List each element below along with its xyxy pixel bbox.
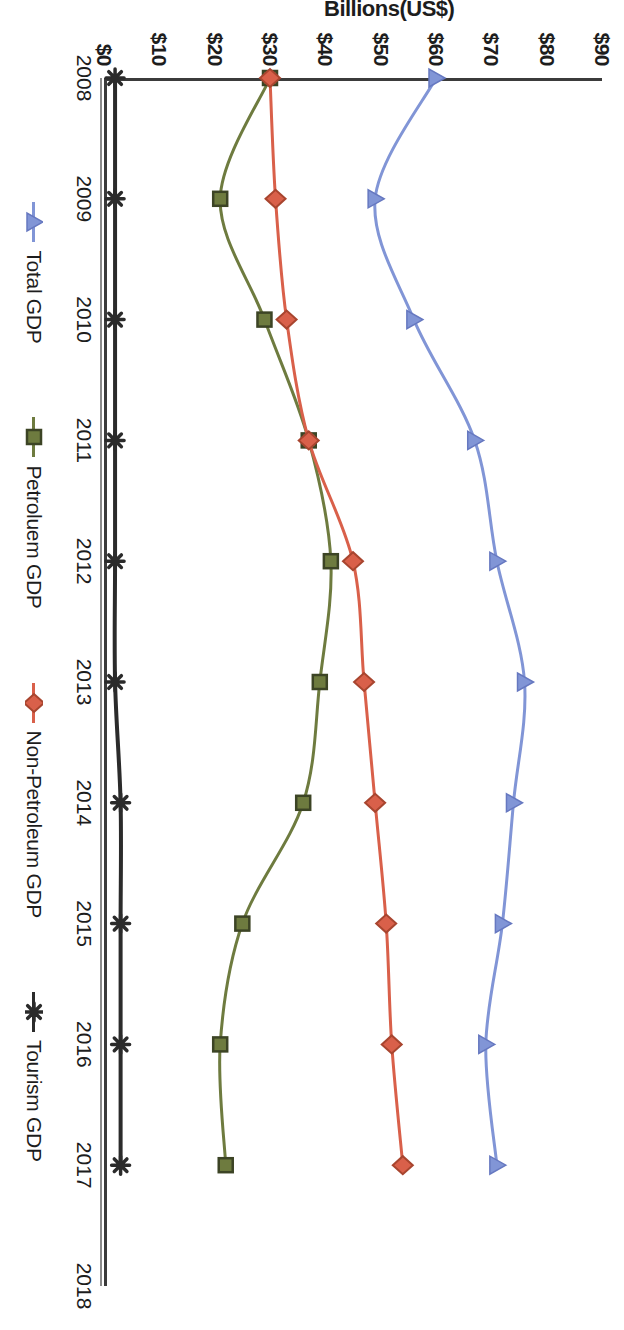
y-tick-label: $80 [536, 32, 557, 66]
x-axis-line-shadow [100, 78, 102, 1286]
x-tick-label: 2015 [72, 900, 96, 947]
y-tick-label: $70 [481, 32, 502, 66]
data-point-star [106, 190, 124, 208]
data-point-diamond [343, 552, 363, 570]
legend-item[interactable]: Petroluem GDP [22, 417, 46, 608]
data-point-triangle [407, 311, 423, 329]
x-tick-label: 2009 [72, 175, 96, 222]
data-point-square [313, 675, 327, 689]
y-axis-tick-labels: $0$10$20$30$40$50$60$70$80$90 [104, 0, 602, 72]
legend-label: Non-Petroleum GDP [22, 731, 46, 918]
x-tick-label: 2016 [72, 1021, 96, 1068]
y-tick-label: $20 [204, 32, 225, 66]
data-point-star [106, 311, 124, 329]
x-tick-label: 2018 [72, 1263, 96, 1310]
data-point-triangle [27, 213, 43, 231]
y-tick-label: $50 [370, 32, 391, 66]
data-point-star [106, 552, 124, 570]
data-point-square [324, 554, 338, 568]
y-tick-label: $30 [260, 32, 281, 66]
chart-legend: Total GDPPetroluem GDPNon-Petroleum GDPT… [12, 78, 56, 1286]
legend-diamond-icon [25, 683, 43, 723]
legend-item[interactable]: Total GDP [22, 202, 46, 343]
x-tick-label: 2011 [72, 418, 96, 463]
series-line [375, 78, 525, 1165]
y-tick-label: $40 [315, 32, 336, 66]
x-tick-label: 2012 [72, 538, 96, 585]
legend-label: Petroluem GDP [22, 465, 46, 608]
data-point-square [213, 192, 227, 206]
x-tick-label: 2010 [72, 296, 96, 343]
x-tick-label: 2017 [72, 1142, 96, 1189]
x-tick-label: 2014 [72, 779, 96, 826]
data-point-star [106, 673, 124, 691]
legend-label: Tourism GDP [22, 1040, 46, 1162]
data-point-star [112, 1035, 130, 1053]
data-point-diamond [277, 311, 297, 329]
legend-item[interactable]: Non-Petroleum GDP [22, 683, 46, 918]
y-tick-label: $90 [592, 32, 613, 66]
series-line [220, 78, 332, 1165]
x-tick-label: 2008 [72, 55, 96, 102]
data-point-square [296, 796, 310, 810]
data-point-star [106, 69, 124, 87]
data-point-square [27, 430, 41, 444]
legend-item[interactable]: Tourism GDP [22, 992, 46, 1162]
data-point-diamond [376, 915, 396, 933]
data-point-diamond [393, 1156, 413, 1174]
data-point-diamond [382, 1035, 402, 1053]
x-axis-tick-labels: 2008200920102011201220132014201520162017… [60, 78, 100, 1286]
y-tick-label: $60 [426, 32, 447, 66]
data-point-star [106, 431, 124, 449]
data-point-triangle [490, 1156, 506, 1174]
data-point-star [112, 915, 130, 933]
legend-triangle-icon [25, 202, 43, 242]
data-point-diamond [25, 694, 43, 712]
data-point-square [213, 1037, 227, 1051]
y-tick-label: $10 [149, 32, 170, 66]
series-line [115, 78, 121, 1165]
data-point-square [257, 313, 271, 327]
plot-area [104, 78, 602, 1286]
y-tick-label: $0 [94, 44, 115, 66]
data-point-diamond [365, 794, 385, 812]
data-point-star [25, 1003, 43, 1021]
data-point-diamond [266, 190, 286, 208]
chart-root: Billions(US$) $0$10$20$30$40$50$60$70$80… [0, 0, 624, 1330]
legend-label: Total GDP [22, 250, 46, 343]
legend-star-icon [25, 992, 43, 1032]
series-line [270, 78, 403, 1165]
rotated-chart-frame: Billions(US$) $0$10$20$30$40$50$60$70$80… [0, 0, 624, 1330]
legend-square-icon [25, 417, 43, 457]
data-point-diamond [354, 673, 374, 691]
data-point-star [112, 1156, 130, 1174]
x-tick-label: 2013 [72, 659, 96, 706]
data-point-star [112, 794, 130, 812]
data-point-square [235, 917, 249, 931]
series-plot [104, 78, 602, 1286]
data-point-square [219, 1158, 233, 1172]
